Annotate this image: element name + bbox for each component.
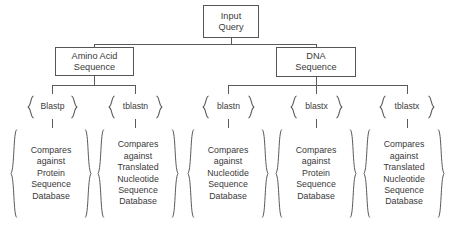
desc-line: Sequence	[208, 179, 248, 190]
desc-line: Nucleotide	[207, 168, 249, 179]
right-brace-icon	[247, 95, 256, 119]
connector-amino-bus	[52, 85, 136, 86]
program-blastp-label: Blastp	[35, 95, 70, 119]
desc-line: Sequence	[118, 185, 158, 196]
program-tblastn-label: tblastn	[116, 95, 155, 119]
connector-blastn-to-desc	[228, 119, 229, 128]
desc-line: Database	[209, 191, 247, 202]
desc-line: Nucleotide	[383, 174, 425, 185]
node-input-query-line-2: Query	[218, 22, 243, 33]
left-brace-icon	[9, 128, 18, 219]
right-brace-icon	[171, 128, 180, 219]
description-blastx-text: Compares against Protein Sequence Databa…	[283, 128, 349, 219]
connector-amino-down	[94, 76, 95, 85]
left-brace-icon	[96, 128, 105, 219]
connector-dna-to-tblastx	[407, 85, 408, 94]
right-brace-icon	[261, 128, 270, 219]
connector-dna-down	[316, 77, 317, 85]
left-brace-icon	[107, 95, 116, 119]
description-blastn-text: Compares against Nucleotide Sequence Dat…	[195, 128, 261, 219]
program-tblastn: tblastn	[107, 95, 164, 119]
desc-line: against	[302, 156, 330, 167]
connector-dna-to-blastx	[316, 85, 317, 94]
program-blastn-label: blastn	[210, 95, 247, 119]
program-blastn: blastn	[201, 95, 256, 119]
right-brace-icon	[349, 128, 358, 219]
left-brace-icon	[201, 95, 210, 119]
description-tblastn: Compares against Translated Nucleotide S…	[96, 128, 180, 219]
left-brace-icon	[274, 128, 283, 219]
desc-line: Compares	[384, 139, 425, 150]
connector-tblastn-to-desc	[135, 119, 136, 128]
connector-blastp-to-desc	[52, 119, 53, 128]
description-tblastn-text: Compares against Translated Nucleotide S…	[105, 128, 171, 219]
desc-line: Nucleotide	[117, 174, 159, 185]
desc-line: Database	[385, 196, 423, 207]
program-blastx: blastx	[289, 95, 344, 119]
left-brace-icon	[289, 95, 298, 119]
program-blastp: Blastp	[26, 95, 79, 119]
desc-line: against	[390, 151, 418, 162]
description-blastx: Compares against Protein Sequence Databa…	[274, 128, 358, 219]
node-dna-sequence-line-1: DNA	[306, 51, 325, 62]
right-brace-icon	[437, 128, 446, 219]
left-brace-icon	[186, 128, 195, 219]
left-brace-icon	[362, 128, 371, 219]
program-tblastx: tblastx	[378, 95, 436, 119]
node-input-query: Input Query	[203, 5, 259, 38]
description-blastp-text: Compares against Protein Sequence Databa…	[18, 128, 84, 219]
description-blastn: Compares against Nucleotide Sequence Dat…	[186, 128, 270, 219]
program-tblastx-label: tblastx	[387, 95, 427, 119]
desc-line: Translated	[383, 162, 424, 173]
left-brace-icon	[378, 95, 387, 119]
connector-tblastx-to-desc	[407, 119, 408, 128]
left-brace-icon	[26, 95, 35, 119]
right-brace-icon	[427, 95, 436, 119]
node-dna-sequence-line-2: Sequence	[295, 62, 336, 73]
right-brace-icon	[70, 95, 79, 119]
description-blastp: Compares against Protein Sequence Databa…	[9, 128, 93, 219]
description-tblastx: Compares against Translated Nucleotide S…	[362, 128, 446, 219]
right-brace-icon	[84, 128, 93, 219]
connector-dna-to-blastn	[228, 85, 229, 94]
flowchart-canvas: Input Query Amino Acid Sequence DNA Sequ…	[0, 0, 453, 231]
desc-line: Translated	[117, 162, 158, 173]
node-amino-acid-sequence: Amino Acid Sequence	[55, 47, 134, 76]
description-tblastx-text: Compares against Translated Nucleotide S…	[371, 128, 437, 219]
desc-line: Database	[297, 191, 335, 202]
connector-amino-to-tblastn	[135, 85, 136, 94]
desc-line: Database	[119, 196, 157, 207]
right-brace-icon	[155, 95, 164, 119]
node-input-query-line-1: Input	[221, 11, 241, 22]
desc-line: Compares	[118, 139, 159, 150]
desc-line: Compares	[31, 145, 72, 156]
desc-line: Protein	[302, 168, 330, 179]
right-brace-icon	[335, 95, 344, 119]
desc-line: Protein	[37, 168, 65, 179]
desc-line: against	[124, 151, 152, 162]
desc-line: Sequence	[31, 179, 71, 190]
connector-amino-to-blastp	[52, 85, 53, 94]
node-dna-sequence: DNA Sequence	[276, 47, 356, 77]
program-blastx-label: blastx	[298, 95, 335, 119]
node-amino-acid-sequence-line-2: Sequence	[74, 62, 115, 73]
connector-main-bus	[94, 44, 316, 45]
desc-line: Compares	[208, 145, 249, 156]
desc-line: Sequence	[296, 179, 336, 190]
desc-line: against	[37, 156, 65, 167]
desc-line: against	[214, 156, 242, 167]
connector-dna-bus	[228, 85, 408, 86]
desc-line: Database	[32, 191, 70, 202]
connector-blastx-to-desc	[316, 119, 317, 128]
node-amino-acid-sequence-line-1: Amino Acid	[72, 51, 118, 62]
desc-line: Compares	[296, 145, 337, 156]
desc-line: Sequence	[384, 185, 424, 196]
